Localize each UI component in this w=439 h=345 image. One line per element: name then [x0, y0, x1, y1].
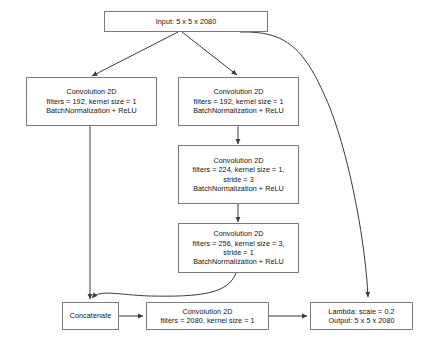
lambda-line-0: Lambda: scale = 0.2 [328, 307, 394, 316]
conv-right-2-line-0: Convolution 2D [213, 156, 263, 165]
conv-right-2-line-1: filters = 224, kernel size = 1, [192, 165, 284, 174]
conv-right-3-line-1: filters = 256, kernel size = 3, [192, 239, 284, 248]
diagram-canvas: Input: 5 x 5 x 2080 Convolution 2D filte… [0, 0, 439, 345]
conv-right-2-line-2: stride = 3 [223, 175, 253, 184]
edge-conv-right-3-to-concat [92, 273, 236, 298]
edge-input-to-conv-right [182, 32, 237, 75]
conv-right-224[interactable]: Convolution 2D filters = 224, kernel siz… [178, 145, 299, 204]
conv-right-256[interactable]: Convolution 2D filters = 256, kernel siz… [178, 223, 299, 273]
conv-left-192[interactable]: Convolution 2D filters = 192, kernel siz… [26, 77, 157, 126]
conv-right-1-line-2: BatchNormalization + ReLU [193, 106, 284, 115]
input-line-0: Input: 5 x 5 x 2080 [156, 17, 217, 26]
conv-right-192[interactable]: Convolution 2D filters = 192, kernel siz… [178, 77, 299, 126]
conv-left-line-0: Convolution 2D [66, 87, 116, 96]
conv-bottom-2080[interactable]: Convolution 2D filters = 2080, kernel si… [146, 302, 269, 330]
conv-bottom-line-1: filters = 2080, kernel size = 1 [160, 316, 254, 325]
conv-right-1-line-0: Convolution 2D [213, 87, 263, 96]
input-block[interactable]: Input: 5 x 5 x 2080 [104, 11, 268, 32]
conv-right-3-line-2: stride = 1 [223, 248, 253, 257]
lambda-line-1: Output: 5 x 5 x 2080 [328, 316, 394, 325]
conv-right-1-line-1: filters = 192, kernel size = 1 [193, 97, 283, 106]
conv-left-line-1: filters = 192, kernel size = 1 [46, 97, 136, 106]
conv-right-2-line-3: BatchNormalization + ReLU [193, 184, 284, 193]
conv-bottom-line-0: Convolution 2D [182, 307, 232, 316]
edge-input-to-conv-left [92, 32, 178, 76]
conv-left-line-2: BatchNormalization + ReLU [46, 106, 137, 115]
concatenate-block[interactable]: Concatenate [62, 302, 119, 330]
lambda-output-block[interactable]: Lambda: scale = 0.2 Output: 5 x 5 x 2080 [310, 302, 413, 330]
concatenate-line-0: Concatenate [70, 311, 112, 320]
conv-right-3-line-3: BatchNormalization + ReLU [193, 257, 284, 266]
conv-right-3-line-0: Convolution 2D [213, 229, 263, 238]
